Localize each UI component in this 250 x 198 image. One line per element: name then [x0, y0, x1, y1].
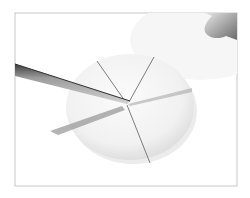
- dough-disc: [66, 54, 194, 160]
- photo-canvas: [0, 0, 250, 198]
- photo: [0, 0, 250, 198]
